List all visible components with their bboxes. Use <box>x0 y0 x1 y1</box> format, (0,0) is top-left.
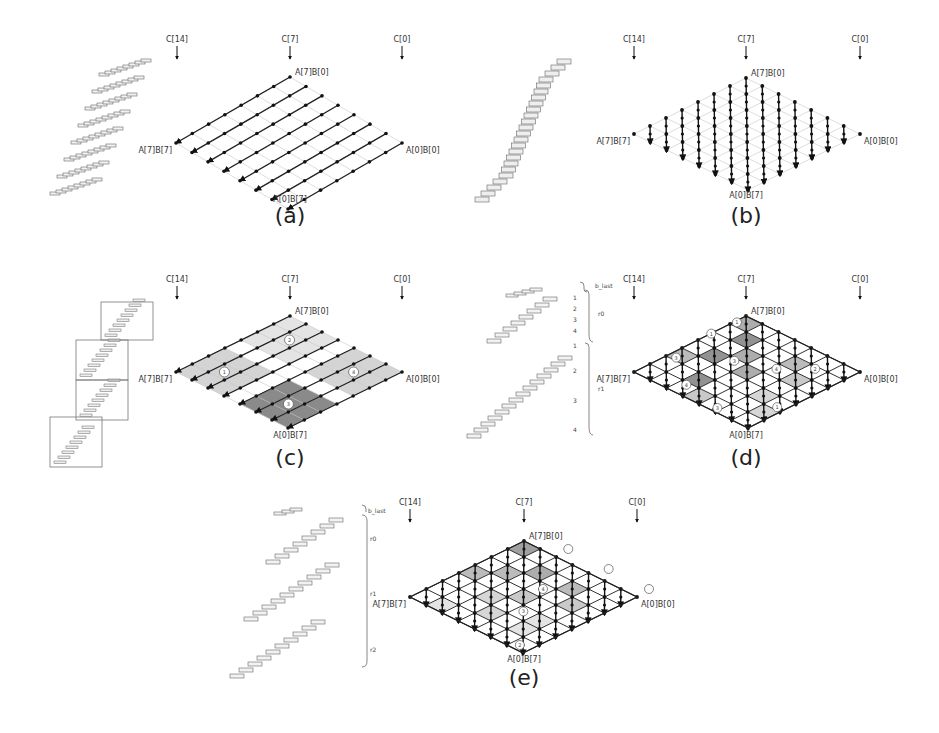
svg-text:2: 2 <box>814 366 817 372</box>
pe-node <box>222 394 226 398</box>
pe-node <box>368 354 372 358</box>
pe-node <box>762 164 766 168</box>
corner-label-top: A[7]B[0] <box>751 69 785 78</box>
pe-node <box>762 394 765 397</box>
corner-label-left: A[7]B[7] <box>138 146 172 155</box>
pe-node <box>506 555 509 558</box>
pe-node <box>555 563 558 566</box>
pe-node <box>665 148 669 152</box>
pe-node <box>522 595 525 598</box>
column-label: C[7] <box>738 275 755 284</box>
pe-node <box>538 611 542 615</box>
pe-node <box>826 370 830 374</box>
pe-node <box>352 378 356 382</box>
pe-node <box>303 402 307 406</box>
panel-c: C[14]C[7]C[0]A[7]B[0]A[7]B[7]A[0]B[0]A[0… <box>50 275 440 470</box>
corner-label-bottom: A[0]B[7] <box>729 191 763 200</box>
pe-node <box>810 116 813 119</box>
pe-node <box>681 370 684 373</box>
pe-node <box>538 603 541 606</box>
pe-node <box>810 140 814 144</box>
pe-node <box>554 603 558 607</box>
pe-node <box>271 354 275 358</box>
column-label: C[7] <box>738 35 755 44</box>
pe-node <box>761 370 765 374</box>
pe-node <box>730 172 733 175</box>
pe-node <box>368 141 372 145</box>
pe-node <box>489 603 493 607</box>
pe-node <box>287 362 291 366</box>
pe-node <box>425 595 428 598</box>
column-label: C[7] <box>282 275 299 284</box>
pe-node <box>223 113 227 117</box>
pe-node <box>538 571 541 574</box>
column-label: C[7] <box>516 498 533 507</box>
pe-node <box>664 116 668 120</box>
pe-node <box>809 108 813 112</box>
pe-node <box>746 402 749 405</box>
pe-node <box>272 322 276 326</box>
pe-node <box>238 402 242 406</box>
pe-node <box>713 370 716 373</box>
pe-node <box>489 587 493 591</box>
panel-caption: (a) <box>275 203 306 228</box>
pe-node <box>761 354 765 358</box>
pe-node <box>505 611 509 615</box>
pe-node <box>239 122 243 126</box>
pe-node <box>506 563 510 567</box>
pe-node <box>665 140 668 143</box>
pe-node <box>505 627 509 631</box>
pe-node <box>619 595 622 598</box>
pe-node <box>762 156 765 159</box>
pe-node <box>697 140 700 143</box>
pe-node <box>648 124 652 128</box>
pe-node <box>745 108 749 112</box>
pe-node <box>303 386 307 390</box>
svg-text:1: 1 <box>710 331 713 337</box>
pe-node <box>287 378 291 382</box>
pe-node <box>206 370 210 374</box>
pe-node <box>521 635 525 639</box>
svg-text:3: 3 <box>733 358 736 364</box>
pe-node <box>697 370 701 374</box>
round-marker <box>564 545 573 554</box>
pe-node <box>239 354 243 358</box>
svg-text:3: 3 <box>675 355 678 361</box>
pe-node <box>729 148 733 152</box>
pe-node <box>826 132 830 136</box>
pe-node <box>745 132 748 135</box>
corner-label-top: A[7]B[0] <box>751 307 785 316</box>
pe-node <box>632 132 636 136</box>
pe-node <box>794 148 798 152</box>
pe-node <box>174 370 178 374</box>
pe-node <box>649 370 652 373</box>
svg-text:r1: r1 <box>598 385 604 392</box>
svg-text:2: 2 <box>573 305 577 312</box>
pe-node <box>713 140 717 144</box>
pe-node <box>696 116 700 120</box>
pe-node <box>174 141 178 145</box>
column-label: C[0] <box>394 35 411 44</box>
pe-node <box>384 362 388 366</box>
pe-node <box>304 338 308 342</box>
pe-node <box>762 386 766 390</box>
pe-node <box>286 410 290 414</box>
pe-node <box>696 354 700 358</box>
pe-node <box>664 132 668 136</box>
pe-node <box>505 595 509 599</box>
round-marker <box>645 585 654 594</box>
pe-node <box>761 362 764 365</box>
pe-node <box>570 619 573 622</box>
pe-node <box>320 113 324 117</box>
pe-node <box>826 140 829 143</box>
pe-node <box>681 132 684 135</box>
pe-node <box>745 124 749 128</box>
pe-node <box>587 611 590 614</box>
pe-node <box>457 579 460 582</box>
pe-node <box>713 354 716 357</box>
pe-node <box>304 354 308 358</box>
pe-node <box>794 132 798 136</box>
pe-node <box>303 179 307 183</box>
pe-node <box>368 370 372 374</box>
svg-text:2: 2 <box>288 337 291 343</box>
